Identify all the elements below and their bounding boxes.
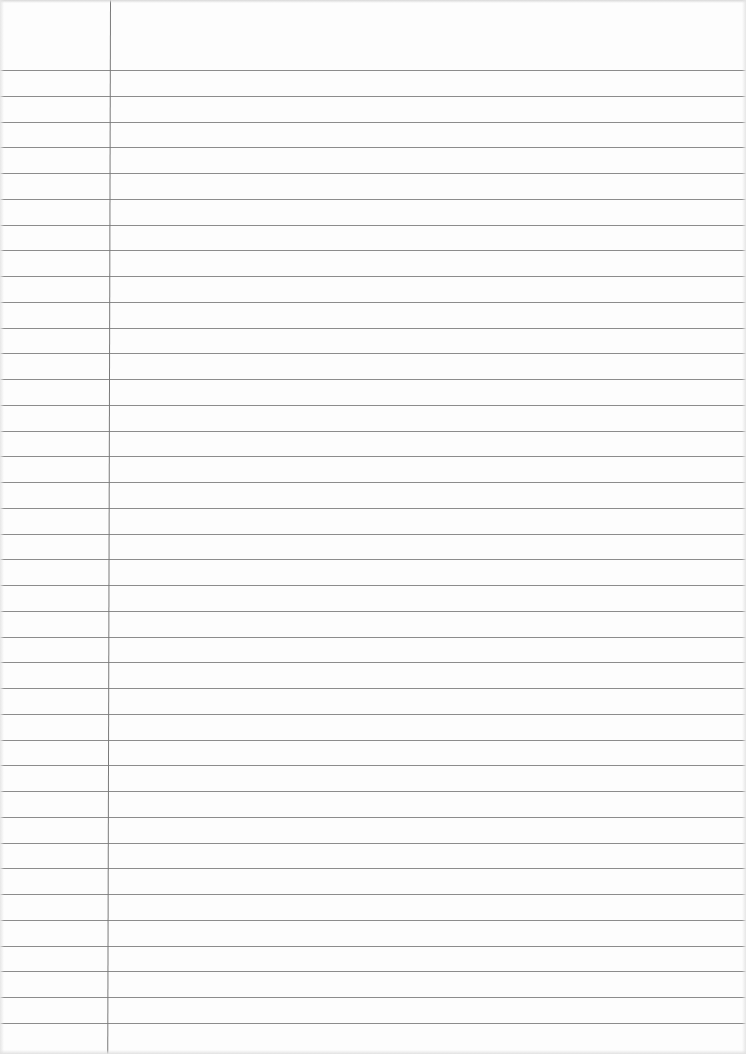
ruled-line <box>0 637 746 638</box>
header-area <box>0 0 746 69</box>
ruled-line <box>0 688 746 689</box>
ruled-line <box>0 353 746 354</box>
ruled-line <box>0 765 746 766</box>
ruled-line <box>0 585 746 586</box>
paper-left-edge <box>0 0 4 1054</box>
ruled-line <box>0 740 746 741</box>
paper-top-edge <box>0 0 746 3</box>
ruled-line <box>0 122 746 123</box>
ruled-line <box>0 456 746 457</box>
ruled-line <box>0 920 746 921</box>
paper-bottom-edge <box>0 1050 746 1054</box>
margin-line <box>107 0 111 1054</box>
ruled-line <box>0 379 746 380</box>
ruled-line <box>0 611 746 612</box>
ruled-line <box>0 714 746 715</box>
ruled-line <box>0 70 746 71</box>
ruled-line <box>0 405 746 406</box>
paper-right-edge <box>742 0 746 1054</box>
ruled-line <box>0 894 746 895</box>
ruled-line <box>0 662 746 663</box>
ruled-line <box>0 431 746 432</box>
ruled-line <box>0 199 746 200</box>
ruled-line <box>0 96 746 97</box>
ruled-line <box>0 946 746 947</box>
ruled-line <box>0 482 746 483</box>
ruled-line <box>0 173 746 174</box>
ruled-line <box>0 1023 746 1024</box>
ruled-line <box>0 997 746 998</box>
ruled-line <box>0 328 746 329</box>
ruled-line <box>0 276 746 277</box>
ruled-line <box>0 534 746 535</box>
ruled-line <box>0 868 746 869</box>
lined-paper-page <box>0 0 746 1054</box>
ruled-line <box>0 302 746 303</box>
ruled-line <box>0 817 746 818</box>
ruled-line <box>0 971 746 972</box>
ruled-line <box>0 791 746 792</box>
ruled-line <box>0 559 746 560</box>
ruled-line <box>0 147 746 148</box>
ruled-line <box>0 225 746 226</box>
ruled-line <box>0 843 746 844</box>
ruled-line <box>0 508 746 509</box>
ruled-line <box>0 250 746 251</box>
